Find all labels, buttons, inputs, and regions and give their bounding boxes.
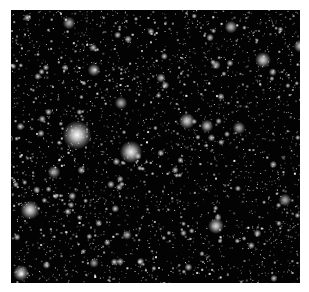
star-field-image [11,10,300,283]
star-field-canvas [11,10,300,283]
